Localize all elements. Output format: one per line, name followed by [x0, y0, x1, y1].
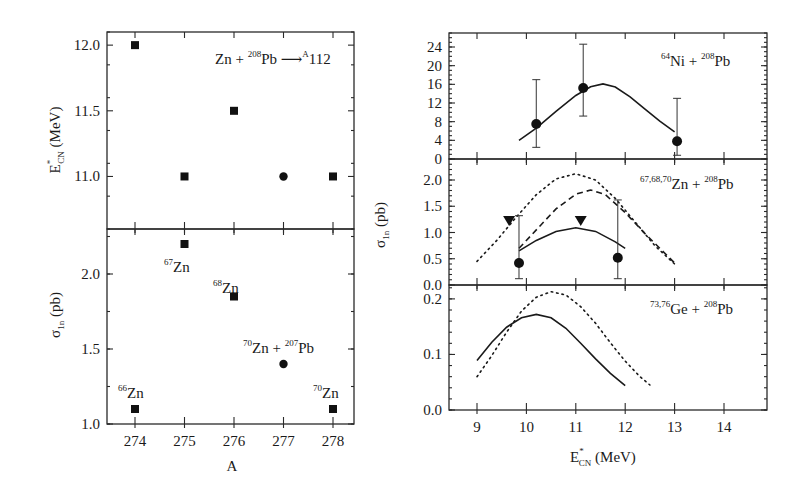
x-tick-label: 13: [667, 419, 682, 435]
right-top-panel: 0481216202464Ni + 208Pb: [427, 33, 767, 167]
x-tick-label: 277: [272, 433, 295, 449]
y-tick-label: 11.5: [74, 103, 100, 119]
square-marker: [329, 172, 337, 180]
annotation: 73,76Ge + 208Pb: [650, 299, 733, 317]
figure: 11.011.512.0Zn + 208Pb ⟶A112 27427527627…: [0, 0, 797, 494]
square-marker: [230, 107, 238, 115]
annotation: 66Zn: [118, 383, 144, 401]
curve-dashed: [519, 190, 675, 263]
y-tick-label: 1.0: [423, 225, 442, 241]
x-tick-label: 275: [173, 433, 196, 449]
annotation: 67,68,70Zn + 208Pb: [640, 174, 733, 192]
circle-marker: [279, 360, 287, 368]
right-bottom-panel: 910111213140.00.10.273,76Ge + 208Pb: [423, 285, 767, 435]
y-tick-label: 0.2: [423, 291, 442, 307]
data-point: [672, 136, 682, 146]
right-ylabel: σ1n (pb): [372, 202, 391, 248]
y-tick-label: 1.5: [423, 198, 442, 214]
curve-dotted: [477, 292, 650, 385]
y-tick-label: 20: [427, 58, 442, 74]
left-bottom-ylabel: σ1n (pb): [47, 292, 66, 338]
y-tick-label: 0: [435, 151, 443, 167]
data-point: [531, 119, 541, 129]
y-tick-label: 8: [435, 114, 443, 130]
data-point: [613, 253, 623, 263]
x-tick-label: 12: [618, 419, 633, 435]
y-tick-label: 11.0: [74, 168, 100, 184]
square-marker: [329, 405, 337, 413]
curve-solid: [477, 314, 625, 385]
left-xlabel: A: [227, 458, 238, 474]
left-top-panel: 11.011.512.0Zn + 208Pb ⟶A112: [74, 32, 354, 233]
y-tick-label: 1.0: [81, 416, 100, 432]
y-tick-label: 4: [435, 132, 443, 148]
y-tick-label: 24: [427, 39, 443, 55]
y-tick-label: 16: [427, 76, 443, 92]
data-point: [578, 83, 588, 93]
triangle-marker: [575, 216, 587, 226]
left-top-ylabel: E*CN (MeV): [45, 107, 66, 174]
y-tick-label: 12: [427, 95, 442, 111]
annotation: Zn + 208Pb ⟶A112: [215, 49, 331, 67]
annotation: 64Ni + 208Pb: [661, 51, 730, 69]
square-marker: [181, 172, 189, 180]
x-tick-label: 278: [322, 433, 345, 449]
x-tick-label: 276: [223, 433, 246, 449]
square-marker: [131, 405, 139, 413]
annotation: 68Zn: [213, 278, 239, 296]
y-tick-label: 1.5: [81, 341, 100, 357]
square-marker: [131, 41, 139, 49]
y-tick-label: 2.0: [423, 172, 442, 188]
x-tick-label: 274: [124, 433, 147, 449]
x-tick-label: 10: [519, 419, 534, 435]
x-tick-label: 11: [569, 419, 583, 435]
square-marker: [181, 240, 189, 248]
plot-frame: [449, 33, 767, 159]
y-tick-label: 12.0: [74, 37, 100, 53]
circle-marker: [279, 172, 287, 180]
y-tick-label: 0.5: [423, 251, 442, 267]
curve-calc: [519, 84, 675, 140]
x-tick-label: 14: [717, 419, 733, 435]
right-middle-panel: 0.00.51.01.52.067,68,70Zn + 208Pb: [423, 159, 767, 293]
plot-frame: [107, 229, 354, 424]
left-bottom-panel: 2742752762772781.01.52.066Zn67Zn68Zn70Zn…: [81, 229, 354, 449]
annotation: 67Zn: [164, 257, 190, 275]
right-xlabel: E*CN (MeV): [570, 446, 636, 468]
y-tick-label: 0.1: [423, 346, 442, 362]
annotation: 70Zn: [313, 383, 339, 401]
y-tick-label: 0.0: [423, 402, 442, 418]
y-tick-label: 2.0: [81, 266, 100, 282]
annotation: 70Zn + 207Pb: [243, 338, 314, 356]
x-tick-label: 9: [473, 419, 481, 435]
data-point: [514, 258, 524, 268]
